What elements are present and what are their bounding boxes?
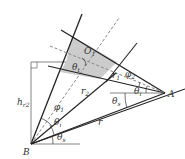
arc-theta-s-A: [125, 93, 127, 108]
label-theta-s-B: θs: [57, 132, 66, 143]
label-phi1: φ1: [54, 102, 64, 113]
label-theta-s-A: θs: [112, 96, 121, 107]
label-h: hr2: [17, 97, 30, 108]
label-r1: r1: [112, 70, 120, 81]
arc-theta-i-A: [146, 86, 147, 93]
label-B: B: [22, 147, 30, 157]
shaded-region: [60, 36, 117, 79]
label-phi2: φ2: [125, 69, 135, 80]
label-r: r: [98, 117, 103, 127]
right-angle-mark: [31, 62, 37, 68]
geometry-diagram: A B O1 hr2 r r1 r2 θt φ2 φ1 θi θs θi θs: [0, 0, 185, 159]
line-B-mid: [31, 73, 116, 144]
arc-theta-s-B: [52, 136, 53, 144]
label-A: A: [167, 89, 175, 99]
label-r2: r2: [81, 86, 89, 97]
label-O: O1: [84, 46, 95, 57]
label-theta-i-B: θi: [54, 117, 61, 128]
